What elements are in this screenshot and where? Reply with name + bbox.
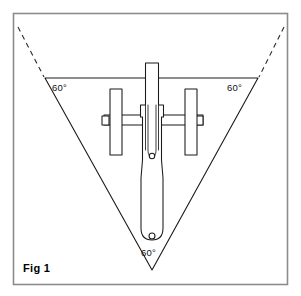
upper-pivot-hole xyxy=(149,153,154,158)
left-roller-plate xyxy=(110,89,122,155)
left-dashed-extension-line xyxy=(18,27,44,77)
technical-diagram: 60° 60° 60° Fig 1 xyxy=(0,0,301,296)
angle-label-right: 60° xyxy=(227,82,242,93)
right-dashed-extension-line xyxy=(259,27,284,77)
angle-label-left: 60° xyxy=(52,82,67,93)
lower-pivot-hole xyxy=(149,233,155,239)
figure-container: 60° 60° 60° Fig 1 xyxy=(0,0,301,296)
right-roller-plate xyxy=(185,89,197,155)
left-axle-end-cap xyxy=(102,116,109,125)
angle-label-apex: 60° xyxy=(141,247,156,258)
figure-caption: Fig 1 xyxy=(23,262,50,274)
forked-blade-body xyxy=(141,63,164,240)
